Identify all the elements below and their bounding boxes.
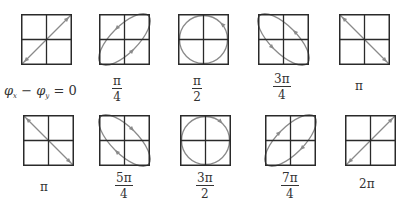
oscilloscope-grid [258,14,309,65]
fraction-numerator: 5π [115,172,133,186]
subscript-y: y [45,92,49,100]
phase-label: 7π 4 [281,172,299,200]
lissajous-panel-6 [99,115,150,166]
lissajous-panel-4 [339,14,390,65]
fraction-numerator: 3π [273,73,291,87]
oscilloscope-grid [21,14,72,65]
oscilloscope-grid [178,14,229,65]
oscilloscope-grid [265,115,316,166]
fraction-denominator: 4 [286,186,294,200]
phase-fraction: 7π 4 [281,172,299,200]
phi-symbol: φ [36,83,45,98]
oscilloscope-grid [99,115,150,166]
phase-label: π 4 [112,75,122,103]
phase-fraction: π 4 [112,75,122,103]
phase-fraction: 5π 4 [115,172,133,200]
fraction-denominator: 2 [201,186,209,200]
phase-label: 3π 2 [196,172,214,200]
oscilloscope-grid [180,115,231,166]
phase-label: π [355,80,363,92]
arrow-head-icon [220,23,225,28]
phase-equation: φx − φy = 0 [4,83,77,98]
subscript-x: x [13,92,17,100]
lissajous-panel-1 [99,14,150,65]
fraction-denominator: 4 [278,87,286,101]
fraction-numerator: π [112,75,122,89]
phase-fraction: 3π 2 [196,172,214,200]
equals-zero: = 0 [53,83,76,98]
phase-fraction: 3π 4 [273,73,291,101]
phase-label: π 2 [192,75,202,103]
lissajous-panel-9 [345,115,396,166]
fraction-numerator: 7π [281,172,299,186]
oscilloscope-grid [99,14,150,65]
phase-value: π [40,180,48,194]
phase-label: 3π 4 [273,73,291,101]
phase-label: 5π 4 [115,172,133,200]
phase-label: φx − φy = 0 [4,84,77,100]
phase-value: π [355,79,363,93]
fraction-denominator: 2 [193,89,201,103]
fraction-numerator: π [192,75,202,89]
arrow-head-icon [217,118,222,123]
fraction-numerator: 3π [196,172,214,186]
lissajous-panel-3 [258,14,309,65]
oscilloscope-grid [23,115,74,166]
phase-value: 2π [359,177,375,191]
phase-label: 2π [359,178,375,190]
lissajous-panel-2 [178,14,229,65]
lissajous-panel-5 [23,115,74,166]
oscilloscope-grid [345,115,396,166]
phi-symbol: φ [4,83,13,98]
minus-sign: − [21,83,32,98]
lissajous-panel-7 [180,115,231,166]
fraction-denominator: 4 [120,186,128,200]
lissajous-panel-0 [21,14,72,65]
phase-label: π [40,181,48,193]
oscilloscope-grid [339,14,390,65]
fraction-denominator: 4 [113,89,121,103]
lissajous-panel-8 [265,115,316,166]
phase-fraction: π 2 [192,75,202,103]
